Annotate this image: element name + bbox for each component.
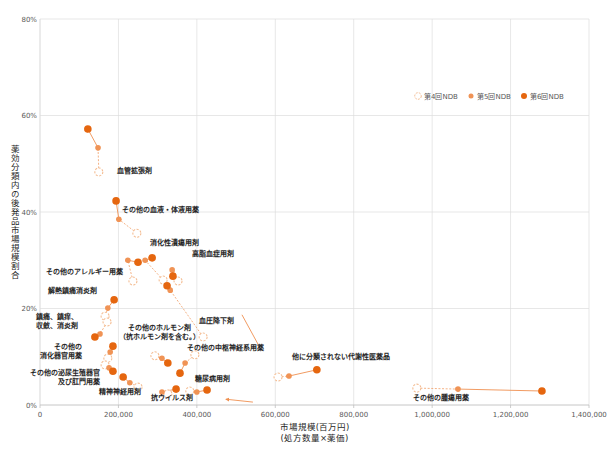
x-tick-label: 600,000: [261, 411, 290, 419]
category-label: 精神神経用剤: [99, 387, 141, 396]
y-tick-label: 40%: [21, 209, 37, 217]
category-label: その他の血液・体液用薬: [122, 205, 200, 214]
point-ndb6: [112, 197, 120, 205]
point-ndb5: [182, 360, 188, 366]
legend-label: 第5回NDB: [477, 92, 511, 101]
category-label: その他のアレルギー用薬: [46, 267, 124, 276]
chart-container: 0200,000400,000600,000800,0001,000,0001,…: [0, 0, 609, 455]
annotation-arrow: [226, 399, 253, 402]
annotation-arrow: [242, 315, 258, 344]
category-labels: 血管拡張剤その他の血液・体液用薬消化性潰瘍用剤高脂血症用剤その他のアレルギー用薬…: [30, 166, 470, 402]
y-tick-label: 80%: [21, 16, 37, 24]
x-tick-label: 800,000: [339, 411, 368, 419]
point-ndb4: [95, 168, 103, 176]
point-ndb4: [274, 373, 282, 381]
point-ndb5: [142, 257, 148, 263]
legend-marker-ndb6: [521, 93, 527, 99]
point-ndb6: [91, 333, 99, 341]
point-ndb6: [148, 254, 156, 262]
point-ndb5: [455, 386, 461, 392]
point-ndb6: [110, 296, 118, 304]
x-tick-label: 1,000,000: [414, 411, 450, 419]
point-ndb5: [105, 305, 111, 311]
point-ndb6: [172, 385, 180, 393]
point-ndb5: [107, 349, 113, 355]
point-ndb6: [109, 342, 117, 350]
category-label: その他のホルモン剤（抗ホルモン剤を含む。）: [119, 323, 200, 341]
category-label: 抗ウイルス剤: [151, 393, 193, 402]
point-ndb4: [103, 318, 111, 326]
point-ndb5: [194, 389, 200, 395]
generic-market-scatter-chart: 0200,000400,000600,000800,0001,000,0001,…: [0, 0, 609, 455]
point-ndb6: [538, 387, 546, 395]
point-ndb5: [169, 267, 175, 273]
point-ndb5: [125, 257, 131, 263]
point-ndb4: [133, 229, 141, 237]
point-ndb4: [129, 277, 137, 285]
point-ndb6: [313, 366, 321, 374]
category-label: その他の中枢神経系用薬: [187, 343, 265, 352]
category-label: 消化性潰瘍用剤: [150, 238, 199, 247]
point-ndb6: [203, 386, 211, 394]
category-label: 他に分類されない代謝性医薬品: [291, 352, 390, 361]
point-ndb6: [169, 272, 177, 280]
point-ndb6: [134, 258, 142, 266]
category-label: その他の腫瘍用薬: [413, 393, 470, 402]
x-tick-label: 400,000: [182, 411, 211, 419]
category-label: 高脂血症用剤: [192, 249, 234, 258]
category-label: 解熱鎮痛消炎剤: [48, 286, 97, 295]
category-label: 血管拡張剤: [117, 166, 152, 175]
x-tick-label: 1,400,000: [571, 411, 607, 419]
y-tick-label: 0%: [26, 402, 37, 410]
x-axis-title: 市場規模(百万円)(処方数量×薬価): [280, 422, 350, 443]
point-ndb6: [119, 373, 127, 381]
category-label: 糖尿病用剤: [195, 374, 230, 383]
legend: 第4回NDB第5回NDB第6回NDB: [415, 92, 564, 101]
legend-label: 第4回NDB: [424, 92, 458, 101]
point-ndb6: [163, 282, 171, 290]
point-ndb5: [95, 145, 101, 151]
legend-marker-ndb4: [415, 93, 422, 100]
point-ndb5: [127, 380, 133, 386]
point-ndb4: [151, 352, 159, 360]
y-tick-label: 60%: [21, 112, 37, 120]
category-label: その他の消化器官用薬: [40, 342, 83, 360]
x-tick-label: 0: [38, 411, 42, 419]
point-ndb4: [191, 351, 199, 359]
point-ndb5: [286, 373, 292, 379]
point-ndb6: [84, 125, 92, 133]
point-ndb5: [159, 355, 165, 361]
x-tick-label: 200,000: [104, 411, 133, 419]
category-label: 血圧降下剤: [199, 316, 234, 325]
category-label: 鎮痛、鎮痒、収斂、消炎剤: [36, 312, 78, 330]
point-ndb6: [109, 367, 117, 375]
y-axis-title: 薬効分類内の後発品市場規模割合: [9, 144, 19, 280]
point-ndb6: [164, 359, 172, 367]
category-label: その他の泌尿生殖器官及び肛門用薬: [30, 368, 101, 386]
y-tick-label: 20%: [21, 305, 37, 313]
point-ndb5: [116, 216, 122, 222]
legend-marker-ndb5: [469, 94, 474, 99]
legend-label: 第6回NDB: [530, 92, 564, 101]
point-ndb6: [176, 369, 184, 377]
x-tick-label: 1,200,000: [493, 411, 529, 419]
point-ndb4: [413, 384, 421, 392]
